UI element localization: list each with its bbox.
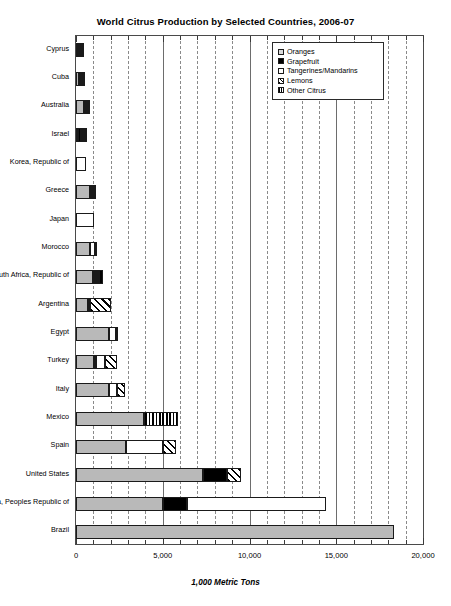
x-axis-title: 1,000 Metric Tons [0, 578, 451, 587]
legend-label: Other Citrus [287, 86, 326, 95]
bar-segment-tangerines [96, 355, 105, 369]
x-axis-tick-label: 10,000 [238, 551, 261, 560]
bar-row [76, 327, 423, 341]
bar-row [76, 383, 423, 397]
bar-segment-lemons [163, 440, 176, 454]
bar-row [76, 242, 423, 256]
x-axis-tick-labels: 05,00010,00015,00020,000 [0, 551, 451, 567]
x-axis-tick-label: 20,000 [411, 551, 434, 560]
legend-swatch-oranges [278, 49, 284, 55]
bar-segment-oranges [76, 468, 203, 482]
stacked-bar[interactable] [76, 72, 85, 86]
y-axis-label: Brazil [0, 526, 69, 535]
legend-label: Lemons [287, 76, 313, 85]
plot-area [75, 35, 424, 545]
stacked-bar[interactable] [76, 440, 176, 454]
legend-label: Tangerines/Mandarins [287, 66, 358, 75]
bar-segment-tangerines [76, 213, 94, 227]
bar-row [76, 157, 423, 171]
stacked-bar[interactable] [76, 383, 125, 397]
bar-segment-oranges [76, 497, 163, 511]
stacked-bar[interactable] [76, 270, 103, 284]
bar-row [76, 185, 423, 199]
legend-item[interactable]: Tangerines/Mandarins [278, 66, 378, 76]
stacked-bar[interactable] [76, 43, 84, 57]
axis-tick [423, 538, 424, 544]
stacked-bar[interactable] [76, 327, 118, 341]
y-axis-label: Spain [0, 441, 69, 450]
bar-segment-lemons [227, 468, 241, 482]
axis-tick [423, 36, 424, 42]
bar-row [76, 412, 423, 426]
stacked-bar[interactable] [76, 298, 111, 312]
bar-segment-tangerines [126, 440, 162, 454]
chart-title: World Citrus Production by Selected Coun… [0, 16, 451, 27]
bar-segment-grapefruit [203, 468, 227, 482]
legend-item[interactable]: Lemons [278, 76, 378, 86]
legend-swatch-other [278, 87, 284, 93]
stacked-bar[interactable] [76, 213, 94, 227]
legend-item[interactable]: Grapefruit [278, 57, 378, 67]
bar-segment-oranges [76, 270, 93, 284]
legend-label: Oranges [287, 47, 315, 56]
bar-segment-lemons [90, 298, 111, 312]
bar-rows [76, 36, 423, 544]
legend-swatch-lemons [278, 78, 284, 84]
y-axis-label: Israel [0, 130, 69, 139]
bar-segment-tangerines [109, 383, 117, 397]
bar-row [76, 270, 423, 284]
bar-segment-lemons [105, 355, 117, 369]
stacked-bar[interactable] [76, 355, 117, 369]
bar-segment-other [85, 128, 87, 142]
stacked-bar[interactable] [76, 468, 241, 482]
bar-segment-oranges [76, 242, 90, 256]
legend-item[interactable]: Oranges [278, 47, 378, 57]
y-axis-label: Cyprus [0, 45, 69, 54]
y-axis-label: United States [0, 470, 69, 479]
bar-segment-oranges [76, 298, 88, 312]
legend-label: Grapefruit [287, 57, 319, 66]
legend-swatch-grapefruit [278, 58, 284, 64]
y-axis-label: Argentina [0, 300, 69, 309]
bar-segment-oranges [76, 525, 394, 539]
bar-segment-other [144, 412, 179, 426]
stacked-bar[interactable] [76, 100, 90, 114]
bar-segment-oranges [76, 440, 126, 454]
bar-row [76, 497, 423, 511]
bar-row [76, 213, 423, 227]
y-axis-label: Italy [0, 385, 69, 394]
stacked-bar[interactable] [76, 525, 394, 539]
y-axis-label: Egypt [0, 328, 69, 337]
legend-swatch-tangerines [278, 68, 284, 74]
y-axis-label: Cuba [0, 73, 69, 82]
y-axis-label: Mexico [0, 413, 69, 422]
stacked-bar[interactable] [76, 128, 87, 142]
y-axis-label: Greece [0, 186, 69, 195]
bar-segment-oranges [76, 355, 94, 369]
stacked-bar[interactable] [76, 185, 96, 199]
bar-row [76, 298, 423, 312]
y-axis-label: Turkey [0, 356, 69, 365]
y-axis-label: Australia [0, 101, 69, 110]
stacked-bar[interactable] [76, 412, 178, 426]
bar-segment-lemons [117, 383, 125, 397]
bar-row [76, 525, 423, 539]
bar-segment-lemons [83, 72, 85, 86]
y-axis-category-labels: CyprusCubaAustraliaIsraelKorea, Republic… [0, 35, 72, 545]
bar-row [76, 355, 423, 369]
bar-row [76, 128, 423, 142]
bar-segment-oranges [76, 100, 84, 114]
bar-segment-lemons [95, 242, 97, 256]
legend-item[interactable]: Other Citrus [278, 85, 378, 95]
bar-segment-tangerines [187, 497, 326, 511]
stacked-bar[interactable] [76, 497, 326, 511]
bar-segment-grapefruit [163, 497, 187, 511]
y-axis-label: Korea, Republic of [0, 158, 69, 167]
stacked-bar[interactable] [76, 242, 97, 256]
stacked-bar[interactable] [76, 157, 86, 171]
bar-segment-other [116, 327, 119, 341]
bar-segment-oranges [76, 412, 144, 426]
bar-row [76, 468, 423, 482]
bar-segment-lemons [88, 100, 90, 114]
bar-segment-lemons [82, 43, 84, 57]
